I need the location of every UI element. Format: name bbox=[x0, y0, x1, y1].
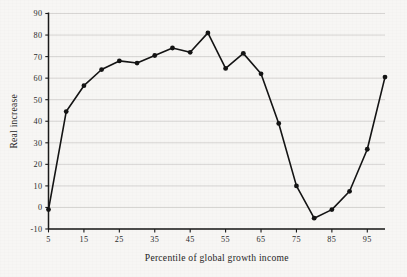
y-tick-label: 90 bbox=[34, 9, 43, 18]
data-point-marker bbox=[294, 184, 299, 189]
data-point-marker bbox=[312, 216, 317, 221]
x-tick-label: 45 bbox=[186, 235, 195, 244]
data-point-marker bbox=[383, 75, 388, 80]
data-point-marker bbox=[365, 147, 370, 152]
data-point-marker bbox=[188, 50, 193, 55]
data-point-marker bbox=[205, 30, 210, 35]
data-point-marker bbox=[152, 53, 157, 58]
x-tick-label: 55 bbox=[221, 235, 230, 244]
x-tick-label: 15 bbox=[79, 235, 88, 244]
data-point-marker bbox=[135, 61, 140, 66]
y-tick-label: 40 bbox=[34, 117, 43, 126]
x-tick-label: 5 bbox=[46, 235, 51, 244]
data-point-marker bbox=[170, 46, 175, 51]
x-axis-title: Percentile of global growth income bbox=[145, 252, 289, 263]
data-point-marker bbox=[329, 207, 334, 212]
data-point-marker bbox=[46, 207, 51, 212]
x-tick-label: 95 bbox=[363, 235, 372, 244]
x-tick-label: 25 bbox=[115, 235, 124, 244]
y-tick-label: 10 bbox=[34, 182, 43, 191]
data-point-marker bbox=[259, 71, 264, 76]
x-tick-label: 85 bbox=[327, 235, 336, 244]
chart-figure: -100102030405060708090 51525354555657585… bbox=[0, 0, 407, 277]
data-point-marker bbox=[276, 121, 281, 126]
x-tick-label: 75 bbox=[292, 235, 301, 244]
x-tick-label: 65 bbox=[257, 235, 266, 244]
y-tick-label: 80 bbox=[34, 31, 43, 40]
data-point-marker bbox=[99, 67, 104, 72]
data-point-marker bbox=[347, 189, 352, 194]
y-tick-label: 0 bbox=[38, 203, 43, 212]
data-point-marker bbox=[117, 59, 122, 64]
data-point-marker bbox=[82, 83, 87, 88]
y-tick-label: 20 bbox=[34, 160, 43, 169]
data-point-marker bbox=[64, 109, 69, 114]
y-tick-label: -10 bbox=[30, 225, 42, 234]
x-tick-label: 35 bbox=[150, 235, 159, 244]
y-tick-label: 30 bbox=[34, 139, 43, 148]
line-chart: -100102030405060708090 51525354555657585… bbox=[0, 0, 407, 277]
y-axis-title: Real increase bbox=[8, 94, 19, 149]
y-tick-label: 60 bbox=[34, 74, 43, 83]
data-point-marker bbox=[223, 66, 228, 71]
data-point-marker bbox=[241, 51, 246, 56]
y-tick-label: 70 bbox=[34, 53, 43, 62]
y-tick-label: 50 bbox=[34, 96, 43, 105]
